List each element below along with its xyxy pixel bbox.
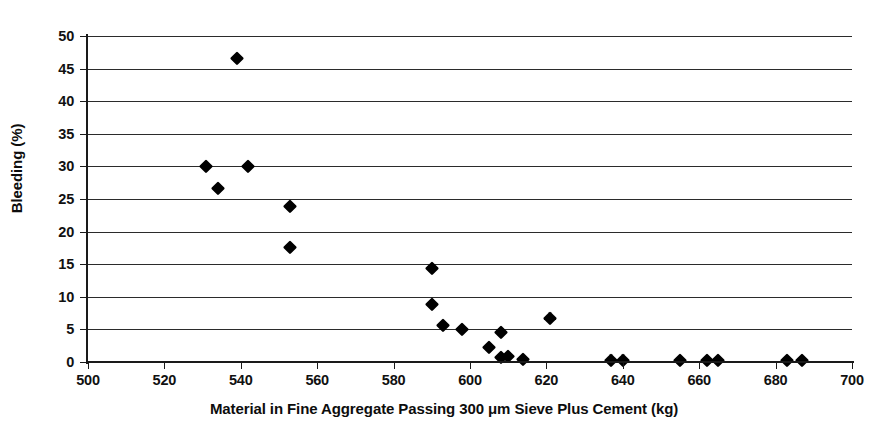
y-tick-label-25: 25 [30, 191, 74, 207]
y-tick-mark-35 [80, 134, 87, 135]
data-point [544, 312, 557, 325]
gridline-y-10 [88, 297, 852, 298]
data-point [211, 181, 224, 194]
x-tick-label-500: 500 [58, 372, 118, 388]
gridline-y-50 [88, 36, 852, 37]
y-tick-mark-0 [80, 362, 87, 363]
scatter-chart-figure: 05101520253035404550 5005205405605806006… [0, 0, 888, 446]
data-point [284, 199, 297, 212]
plot-area [88, 36, 852, 362]
gridline-y-15 [88, 264, 852, 265]
data-point [284, 240, 297, 253]
x-tick-mark-620 [546, 362, 547, 369]
y-tick-mark-10 [80, 297, 87, 298]
data-point [230, 51, 243, 64]
y-tick-label-50: 50 [30, 28, 74, 44]
x-tick-label-600: 600 [440, 372, 500, 388]
data-point [200, 160, 213, 173]
x-tick-mark-680 [776, 362, 777, 369]
y-tick-label-5: 5 [30, 321, 74, 337]
x-tick-label-560: 560 [287, 372, 347, 388]
x-tick-mark-640 [623, 362, 624, 369]
x-tick-label-700: 700 [822, 372, 882, 388]
data-point [456, 322, 469, 335]
x-tick-label-580: 580 [364, 372, 424, 388]
y-tick-mark-15 [80, 264, 87, 265]
x-tick-mark-660 [699, 362, 700, 369]
gridline-y-40 [88, 101, 852, 102]
x-tick-label-620: 620 [516, 372, 576, 388]
x-tick-mark-580 [394, 362, 395, 369]
x-tick-label-540: 540 [211, 372, 271, 388]
y-tick-label-20: 20 [30, 224, 74, 240]
x-tick-mark-600 [470, 362, 471, 369]
y-tick-mark-5 [80, 329, 87, 330]
x-tick-label-520: 520 [134, 372, 194, 388]
y-tick-mark-25 [80, 199, 87, 200]
x-tick-label-640: 640 [593, 372, 653, 388]
data-point [494, 325, 507, 338]
x-tick-label-680: 680 [746, 372, 806, 388]
y-tick-mark-45 [80, 69, 87, 70]
gridline-y-25 [88, 199, 852, 200]
y-tick-label-10: 10 [30, 289, 74, 305]
y-tick-label-15: 15 [30, 256, 74, 272]
gridline-y-5 [88, 329, 852, 330]
data-point [242, 159, 255, 172]
y-tick-label-0: 0 [30, 354, 74, 370]
x-tick-mark-540 [241, 362, 242, 369]
y-tick-mark-20 [80, 232, 87, 233]
data-point [482, 340, 495, 353]
gridline-y-20 [88, 232, 852, 233]
gridline-y-35 [88, 134, 852, 135]
x-tick-mark-700 [852, 362, 853, 369]
gridline-y-45 [88, 69, 852, 70]
y-tick-mark-30 [80, 166, 87, 167]
x-tick-mark-500 [88, 362, 89, 369]
y-tick-label-35: 35 [30, 126, 74, 142]
data-point [425, 297, 438, 310]
y-tick-mark-40 [80, 101, 87, 102]
x-tick-mark-560 [317, 362, 318, 369]
y-tick-label-45: 45 [30, 61, 74, 77]
x-tick-label-660: 660 [669, 372, 729, 388]
y-tick-label-30: 30 [30, 158, 74, 174]
x-tick-mark-520 [164, 362, 165, 369]
y-tick-label-40: 40 [30, 93, 74, 109]
x-axis-title: Material in Fine Aggregate Passing 300 μ… [0, 400, 888, 417]
y-axis-title: Bleeding (%) [8, 69, 25, 269]
y-tick-mark-50 [80, 36, 87, 37]
data-point [517, 353, 530, 366]
